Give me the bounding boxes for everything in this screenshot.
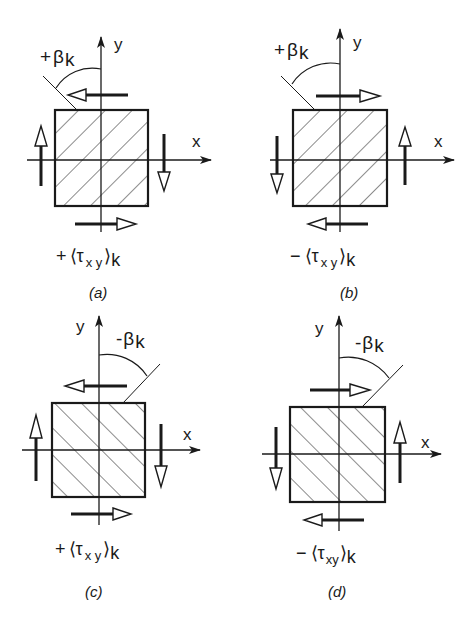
shear-arrow-bottom-right-icon (75, 218, 136, 230)
shear-caption: +⟨τx y⟩k (55, 539, 120, 563)
panel-d: -βk y x −⟨τxy⟩k (d) (262, 316, 441, 600)
angle-label: -βk (355, 332, 384, 356)
shear-arrow-top-left-icon (68, 89, 128, 101)
shear-arrow-top-left-icon (65, 380, 127, 392)
angle-arc (99, 354, 147, 376)
shear-arrow-bottom-left-icon (304, 514, 364, 526)
angle-arc (292, 63, 340, 84)
angle-label: +βk (274, 39, 309, 63)
y-axis-label: y (353, 33, 362, 52)
shear-arrow-bottom-left-icon (308, 218, 368, 230)
shear-arrow-top-right-icon (316, 90, 380, 102)
rotated-axis-line (281, 76, 315, 110)
shear-arrow-right-down-icon (158, 134, 170, 191)
x-axis-label: x (434, 132, 443, 151)
shear-arrow-left-up-icon (30, 415, 42, 481)
panel-label: (c) (85, 583, 103, 600)
panel-label: (a) (89, 284, 107, 301)
angle-arc (56, 68, 101, 88)
shear-arrow-left-down-icon (270, 427, 282, 489)
angle-label: -βk (116, 328, 145, 352)
y-axis-label: y (76, 317, 85, 336)
shear-sign-convention-figure: +βk y x +⟨τx y⟩k (a) +βk (0, 0, 467, 628)
shear-arrow-left-up-icon (35, 126, 47, 186)
x-axis-label: x (192, 132, 201, 151)
shear-caption: −⟨τx y⟩k (290, 246, 356, 270)
angle-label: +βk (40, 46, 75, 70)
x-axis-label: x (421, 433, 430, 452)
shear-arrow-left-down-icon (271, 136, 283, 193)
panel-label: (b) (340, 284, 358, 301)
shear-caption: +⟨τx y⟩k (56, 246, 121, 270)
x-axis-label: x (183, 425, 192, 444)
panel-a: +βk y x +⟨τx y⟩k (a) (27, 35, 211, 301)
angle-arc (339, 357, 389, 378)
shear-arrow-top-right-icon (310, 384, 370, 396)
shear-arrow-bottom-right-icon (71, 508, 131, 520)
shear-caption: −⟨τxy⟩k (296, 543, 357, 567)
shear-arrow-right-up-icon (394, 422, 406, 483)
y-axis-label: y (315, 319, 324, 338)
panel-b: +βk y x −⟨τx y⟩k (b) (270, 29, 454, 301)
panel-c: -βk y x +⟨τx y⟩k (c) (22, 316, 200, 600)
shear-arrow-right-down-icon (155, 424, 167, 487)
shear-arrow-right-up-icon (399, 127, 411, 185)
y-axis-label: y (114, 35, 123, 54)
panel-label: (d) (328, 583, 346, 600)
